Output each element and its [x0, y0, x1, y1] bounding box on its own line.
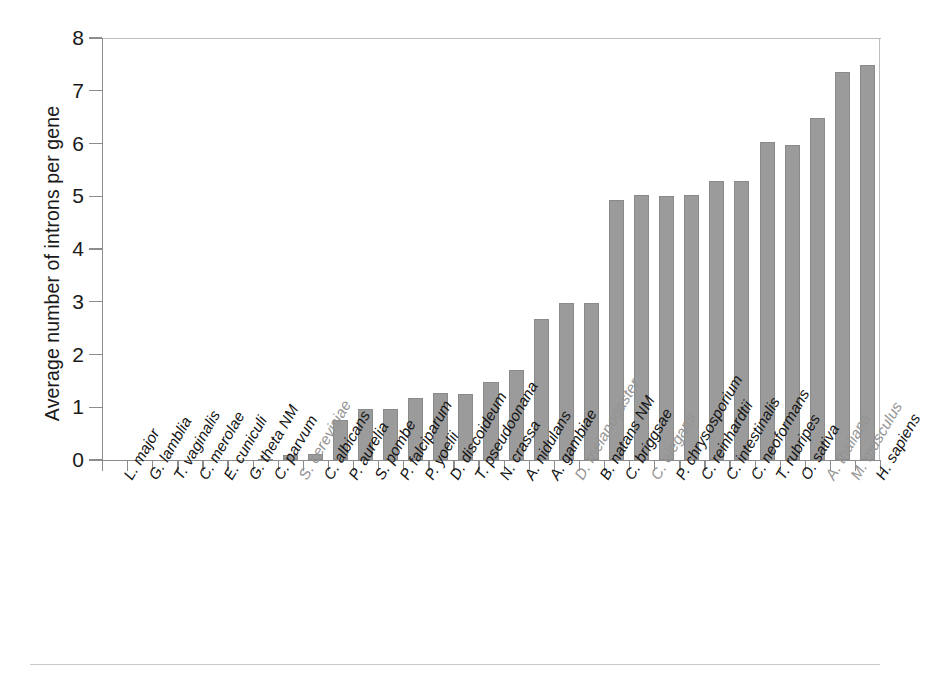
y-axis-line: [102, 38, 103, 461]
y-tick-mark: [89, 90, 102, 91]
y-tick-mark: [89, 143, 102, 144]
y-tick-mark: [89, 37, 102, 38]
y-tick-mark: [89, 248, 102, 249]
y-tick-mark: [89, 459, 102, 460]
plot-frame-top: [102, 38, 881, 39]
y-tick-label: 7: [10, 79, 84, 103]
y-tick-label: 8: [10, 26, 84, 50]
y-tick-mark: [89, 301, 102, 302]
y-tick-label: 3: [10, 290, 84, 314]
y-tick-label: 0: [10, 448, 84, 472]
y-tick-mark: [89, 354, 102, 355]
y-tick-label: 5: [10, 184, 84, 208]
footer-divider: [30, 664, 880, 665]
y-tick-label: 4: [10, 237, 84, 261]
y-tick-label: 6: [10, 132, 84, 156]
bar: [835, 72, 850, 460]
y-tick-mark: [89, 407, 102, 408]
y-tick-label: 1: [10, 395, 84, 419]
plot-frame-right: [879, 38, 880, 461]
x-tick-mark: [102, 461, 103, 471]
y-tick-label: 2: [10, 343, 84, 367]
y-tick-mark: [89, 196, 102, 197]
bar: [860, 65, 875, 460]
bar: [810, 118, 825, 460]
